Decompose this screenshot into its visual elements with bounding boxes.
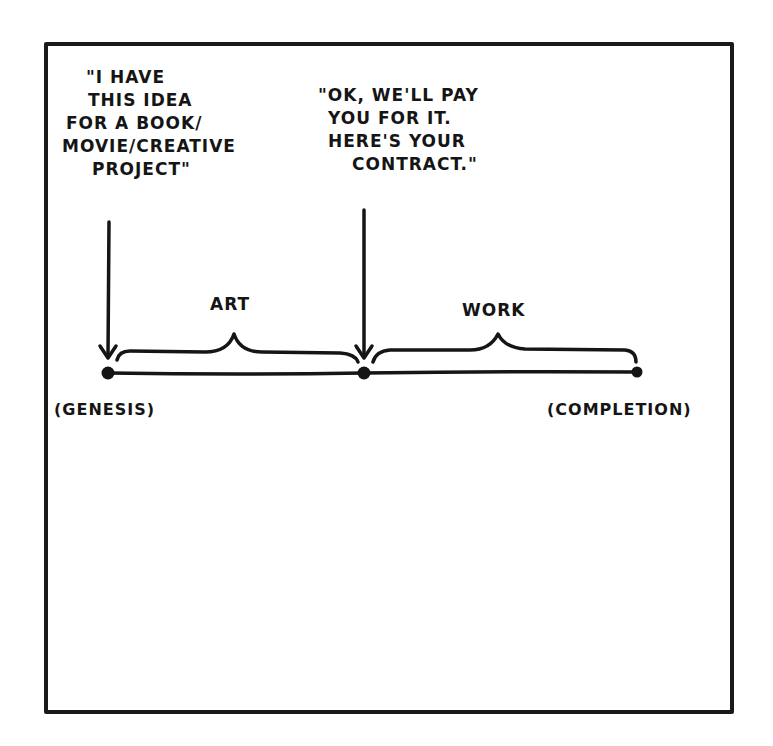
completion-point (632, 367, 643, 378)
timeline-line (108, 372, 637, 374)
art-label: ART (210, 294, 250, 314)
timeline-diagram (0, 0, 773, 746)
contract-point (358, 367, 371, 380)
completion-label: (COMPLETION) (547, 400, 692, 419)
art-brace (117, 334, 358, 362)
work-label: WORK (462, 300, 525, 320)
genesis-label: (GENESIS) (54, 400, 155, 419)
genesis-point (102, 367, 115, 380)
work-brace (373, 334, 636, 362)
arrow-to-genesis (108, 222, 109, 356)
